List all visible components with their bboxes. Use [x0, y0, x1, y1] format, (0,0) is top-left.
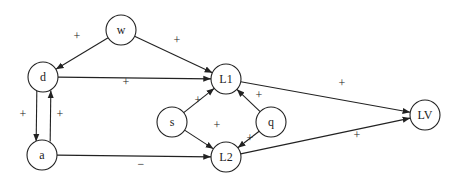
node-s: s — [157, 107, 187, 137]
edge-sign-s-L1: + — [195, 93, 202, 107]
node-label: L2 — [219, 150, 232, 164]
edge-sign-s-L2: + — [214, 118, 221, 132]
edge-sign-d-a: + — [20, 107, 27, 121]
edge-sign-a-d: + — [57, 107, 64, 121]
node-L2: L2 — [211, 142, 241, 172]
edge-sign-a-L2: − — [138, 157, 145, 171]
causal-diagram: +++++−++++++ wdaL1sqL2LV — [0, 0, 461, 182]
node-label: a — [39, 148, 45, 162]
nodes-layer: wdaL1sqL2LV — [27, 15, 440, 172]
edge-sign-L1-LV: + — [339, 76, 346, 90]
edge-sign-w-d: + — [74, 29, 81, 43]
edge-d-a — [36, 90, 37, 141]
edge-a-d — [50, 90, 51, 141]
edge-d-L1 — [58, 77, 211, 79]
edge-labels-layer: +++++−++++++ — [20, 29, 361, 171]
node-label: q — [268, 115, 274, 129]
node-label: LV — [418, 108, 433, 122]
node-label: L1 — [219, 72, 232, 86]
edge-w-d — [56, 38, 108, 70]
node-L1: L1 — [211, 64, 241, 94]
edge-sign-L2-LV: + — [354, 128, 361, 142]
edge-a-L2 — [57, 155, 211, 157]
node-d: d — [28, 62, 58, 92]
node-LV: LV — [410, 100, 440, 130]
edge-s-L2 — [185, 130, 214, 149]
edge-sign-q-L2: + — [247, 131, 254, 145]
node-label: d — [40, 70, 46, 84]
node-label: w — [117, 23, 126, 37]
edge-sign-d-L1: + — [123, 75, 130, 89]
edge-sign-w-L1: + — [174, 33, 181, 47]
node-a: a — [27, 140, 57, 170]
node-label: s — [170, 115, 175, 129]
node-q: q — [256, 107, 286, 137]
edge-sign-q-L1: + — [256, 88, 263, 102]
node-w: w — [106, 15, 136, 45]
